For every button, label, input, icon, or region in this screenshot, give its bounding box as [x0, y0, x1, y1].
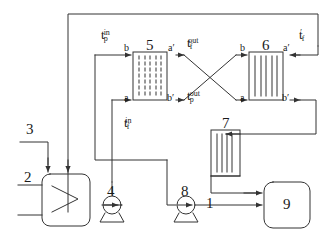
- temp-label-tf-in: tfin: [124, 116, 132, 131]
- equipment-label-5: 5: [146, 38, 154, 53]
- hx5-tube-bundle: [139, 56, 161, 96]
- pipe-unit7-to-unit9: [211, 176, 256, 193]
- temp-label-tf-prime: tf′: [299, 28, 302, 43]
- unit1-vessel-body: [42, 174, 90, 226]
- temp-label-tf-out: tfout: [187, 36, 199, 51]
- port-label-hx6-b: b: [240, 43, 245, 53]
- unit7-shell: [211, 130, 240, 176]
- unit1-internal-coil: [52, 186, 78, 212]
- port-label-hx5-aprime: a′: [168, 43, 175, 53]
- pipe-hx6-aprime-in: [294, 46, 318, 55]
- temp-label-tp-out: tpout: [187, 89, 200, 104]
- equipment-label-4: 4: [107, 184, 115, 199]
- unit7-tube-bundle: [217, 134, 232, 172]
- temp-label-tp-in: tpin: [101, 28, 110, 43]
- port-label-hx6-a: a: [240, 93, 244, 103]
- hx6-tube-bundle: [255, 56, 277, 96]
- equipment-label-3: 3: [26, 122, 34, 137]
- equipment-label-2: 2: [24, 170, 32, 185]
- equipment-label-6: 6: [262, 38, 270, 53]
- port-label-hx6-aprime: a′: [283, 43, 290, 53]
- pipe-hx6-to-unit7: [226, 100, 316, 134]
- equipment-label-1: 1: [206, 196, 214, 211]
- port-label-hx5-bprime: b′: [167, 93, 174, 103]
- pipe-branch-to-pump8: [167, 160, 176, 205]
- process-flow-diagram: 1 2 3 4 5 6 7 8 9 b a′ a b′ b a′ a b′ tp…: [0, 0, 330, 238]
- port-label-hx5-b: b: [124, 43, 129, 53]
- equipment-label-9: 9: [283, 197, 291, 212]
- pump-8-symbol: [174, 196, 198, 222]
- pipe-stream3: [20, 142, 48, 165]
- flow-line-canvas: [0, 0, 330, 238]
- port-label-hx5-a: a: [124, 93, 128, 103]
- equipment-label-7: 7: [222, 116, 230, 131]
- pump-4-symbol: [100, 196, 124, 222]
- equipment-label-8: 8: [181, 184, 189, 199]
- port-label-hx6-bprime: b′: [282, 93, 289, 103]
